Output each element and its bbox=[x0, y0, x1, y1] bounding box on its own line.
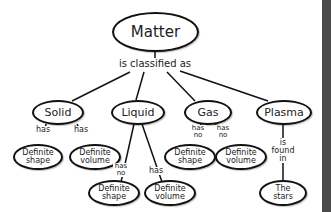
node-plasma-label: Plasma bbox=[264, 107, 304, 118]
link-line: no bbox=[190, 132, 206, 139]
node-matter: Matter bbox=[112, 12, 199, 52]
label-line: volume bbox=[80, 157, 110, 165]
node-matter-label: Matter bbox=[131, 25, 180, 40]
node-gas: Gas bbox=[184, 100, 232, 125]
edge-bar bbox=[322, 0, 331, 212]
label-line: shape bbox=[26, 157, 50, 165]
link-line: no bbox=[113, 170, 129, 177]
link-line: no bbox=[215, 132, 231, 139]
label-line: shape bbox=[178, 157, 202, 165]
label-line: volume bbox=[226, 157, 256, 165]
link-is-classified-as: is classified as bbox=[118, 59, 192, 69]
link-solid-has-shape: has bbox=[32, 126, 54, 134]
node-the-stars: The stars bbox=[259, 180, 307, 206]
concept-map: Matter is classified as Solid has has De… bbox=[0, 0, 331, 212]
node-liquid-definite-shape: Definite shape bbox=[88, 180, 140, 206]
link-liquid-has-volume: has bbox=[147, 167, 165, 175]
link-gas-has-no-volume: has no bbox=[215, 125, 231, 139]
node-liquid: Liquid bbox=[111, 100, 165, 125]
node-gas-definite-shape: Definite shape bbox=[164, 144, 216, 170]
label-line: stars bbox=[273, 193, 293, 201]
node-solid: Solid bbox=[32, 100, 84, 125]
node-gas-definite-volume: Definite volume bbox=[215, 144, 267, 170]
link-liquid-has-no-shape: has no bbox=[113, 163, 129, 177]
node-liquid-label: Liquid bbox=[121, 107, 154, 118]
link-plasma-is-found-in: is found in bbox=[270, 139, 296, 163]
node-gas-label: Gas bbox=[198, 107, 219, 118]
link-gas-has-no-shape: has no bbox=[190, 125, 206, 139]
node-liquid-definite-volume: Definite volume bbox=[144, 180, 196, 206]
label-line: shape bbox=[102, 193, 126, 201]
node-plasma: Plasma bbox=[256, 100, 312, 125]
link-line: in bbox=[270, 155, 296, 163]
label-line: volume bbox=[155, 193, 185, 201]
node-solid-definite-shape: Definite shape bbox=[13, 144, 63, 170]
node-solid-label: Solid bbox=[45, 107, 72, 118]
link-solid-has-volume: has bbox=[70, 126, 92, 134]
